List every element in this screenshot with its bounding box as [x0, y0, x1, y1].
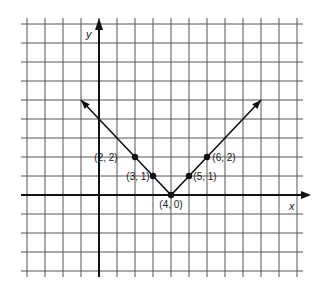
y-axis-label: y	[85, 28, 93, 40]
data-point	[204, 154, 210, 160]
x-axis-label: x	[288, 200, 295, 212]
x-axis-arrow-icon	[301, 191, 311, 199]
point-label-4-0: (4, 0)	[159, 199, 182, 210]
point-label-6-2: (6, 2)	[212, 152, 235, 163]
data-point	[132, 154, 138, 160]
point-label-3-1: (3, 1)	[126, 171, 149, 182]
point-label-2-2: (2, 2)	[94, 152, 117, 163]
graph: x y (2, 2) (3, 1) (4, 0) (5, 1) (6, 2)	[0, 0, 321, 297]
data-point	[186, 173, 192, 179]
grid-lines	[21, 18, 303, 277]
data-point	[150, 173, 156, 179]
point-label-5-1: (5, 1)	[193, 171, 216, 182]
data-point	[168, 192, 174, 198]
axes	[21, 18, 311, 277]
